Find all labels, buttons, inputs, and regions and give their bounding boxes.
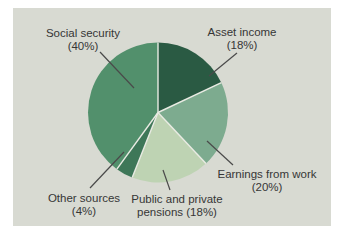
leader-line-asset-income xyxy=(209,53,237,76)
label-line: Social security xyxy=(46,27,120,39)
label-line: Public and private xyxy=(131,193,222,205)
label-line: Asset income xyxy=(207,26,276,38)
label-line: (18%) xyxy=(227,39,258,51)
label-social-security: Social security (40%) xyxy=(46,27,120,53)
label-asset-income: Asset income (18%) xyxy=(207,26,276,52)
label-line: Other sources xyxy=(48,192,120,204)
label-line: (4%) xyxy=(72,205,96,217)
label-public-and-private-pensions: Public and private pensions (18%) xyxy=(131,193,222,219)
label-line: (40%) xyxy=(68,40,99,52)
label-other-sources: Other sources (4%) xyxy=(48,192,120,218)
label-line: (20%) xyxy=(252,181,283,193)
label-line: Earnings from work xyxy=(217,168,316,180)
label-earnings-from-work: Earnings from work (20%) xyxy=(217,168,316,194)
label-line: pensions (18%) xyxy=(137,206,217,218)
figure-canvas: Social security (40%) Asset income (18%)… xyxy=(0,0,349,243)
